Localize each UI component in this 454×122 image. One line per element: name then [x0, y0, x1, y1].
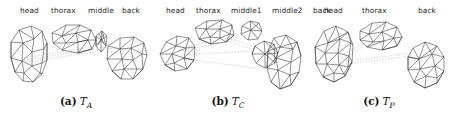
mesh-part-head-a — [11, 26, 47, 82]
mesh-part-thorax-a — [52, 25, 96, 53]
caption-tag-a: (a) — [60, 95, 77, 107]
part-label-middle2: middle2 — [272, 5, 303, 16]
part-label-head: head — [20, 5, 39, 16]
mesh-diagram-b — [152, 16, 304, 94]
caption-symbol-c: T — [380, 95, 390, 107]
caption-subscript-a: A — [87, 101, 92, 110]
subfigure-panel-a: head thorax middle back — [0, 0, 152, 122]
connector-lines-a — [24, 46, 126, 62]
mesh-part-back-c — [408, 42, 444, 88]
part-label-head: head — [324, 5, 343, 16]
mesh-part-middle2-b — [252, 41, 278, 68]
caption-tag-c: (c) — [363, 95, 379, 107]
part-label-thorax: thorax — [362, 5, 387, 16]
subfigure-panel-b: head thorax middle1 middle2 back — [152, 0, 304, 122]
part-label-middle: middle — [88, 5, 114, 16]
mesh-diagram-c — [304, 16, 454, 91]
part-label-back: back — [418, 5, 436, 16]
caption-symbol-a: T — [77, 95, 87, 107]
caption-c: (c)TP — [304, 95, 454, 110]
caption-symbol-b: T — [229, 95, 239, 107]
mesh-part-head-c — [315, 26, 353, 82]
mesh-part-middle-a — [96, 31, 107, 52]
part-label-thorax: thorax — [196, 5, 221, 16]
part-label-back: back — [122, 5, 140, 16]
caption-a: (a)TA — [0, 95, 152, 110]
mesh-diagram-a — [0, 16, 152, 91]
caption-b: (b)TC — [152, 95, 304, 110]
mesh-template-figure: head thorax middle back — [0, 0, 454, 122]
part-label-thorax: thorax — [51, 5, 76, 16]
mesh-part-thorax-c — [360, 22, 402, 50]
mesh-part-back-a — [107, 37, 147, 79]
mesh-part-back-b — [267, 35, 301, 89]
caption-subscript-c: P — [390, 101, 395, 110]
mesh-part-thorax-b — [195, 20, 234, 44]
mesh-part-middle1-b — [241, 21, 262, 40]
part-label-head: head — [166, 5, 185, 16]
caption-tag-b: (b) — [211, 95, 228, 107]
part-label-middle1: middle1 — [231, 5, 262, 16]
caption-subscript-b: C — [239, 101, 245, 110]
subfigure-panel-c: head thorax back — [304, 0, 454, 122]
connector-lines-c — [344, 42, 412, 64]
mesh-part-head-b — [160, 36, 195, 71]
